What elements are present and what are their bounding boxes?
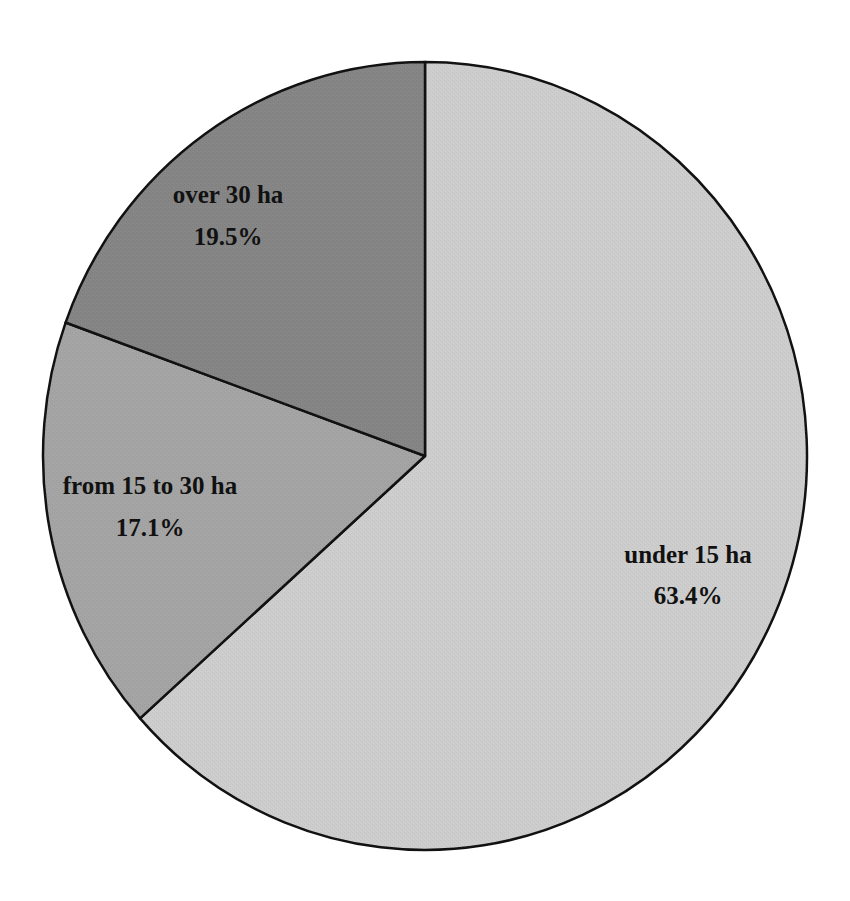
- slice-value-15-to-30: 17.1%: [116, 514, 185, 541]
- slice-value-over-30: 19.5%: [194, 223, 263, 250]
- pie-chart: under 15 ha 63.4% from 15 to 30 ha 17.1%…: [0, 0, 850, 901]
- slice-value-under-15: 63.4%: [654, 582, 723, 609]
- slice-label-15-to-30: from 15 to 30 ha: [63, 472, 238, 499]
- pie-slices: [43, 62, 807, 850]
- slice-label-over-30: over 30 ha: [173, 181, 284, 208]
- slice-label-under-15: under 15 ha: [624, 541, 752, 568]
